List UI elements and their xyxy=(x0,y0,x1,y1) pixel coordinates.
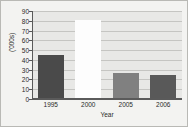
bar xyxy=(150,75,176,98)
bar xyxy=(113,73,139,98)
x-axis-tick-labels: 1995200020052006 xyxy=(32,101,182,111)
y-tick-label: 10 xyxy=(22,86,29,93)
y-tick-label: 40 xyxy=(22,56,29,63)
y-axis-tick-labels: 0102030405060708090 xyxy=(13,11,29,99)
bar xyxy=(38,55,64,98)
x-tick-label: 1995 xyxy=(44,101,58,108)
x-tick-label: 2006 xyxy=(156,101,170,108)
y-tick-label: 70 xyxy=(22,27,29,34)
y-tick-label: 80 xyxy=(22,17,29,24)
y-tick-label: 30 xyxy=(22,66,29,73)
y-tick-label: 20 xyxy=(22,76,29,83)
y-tick-mark xyxy=(29,99,32,100)
bar xyxy=(75,20,101,98)
y-tick-label: 90 xyxy=(22,8,29,15)
bar-chart-figure: ('000s) 0102030405060708090 199520002005… xyxy=(0,0,188,127)
x-tick-label: 2005 xyxy=(119,101,133,108)
gridline xyxy=(32,99,182,100)
plot-area xyxy=(32,11,182,99)
x-tick-label: 2000 xyxy=(81,101,95,108)
x-axis-title: Year xyxy=(32,111,182,118)
bar-series xyxy=(32,11,182,99)
y-tick-label: 60 xyxy=(22,37,29,44)
y-tick-label: 50 xyxy=(22,47,29,54)
